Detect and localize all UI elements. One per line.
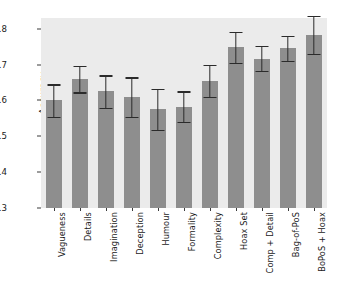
error-bar-cap (256, 46, 269, 47)
error-bar-cap (178, 91, 191, 92)
y-tick-label: 0.4 (0, 167, 7, 177)
x-tick-label: Bag-of-PoS (291, 212, 301, 257)
x-tick-mark (184, 208, 185, 211)
x-tick-mark (288, 208, 289, 211)
x-tick-mark (158, 208, 159, 211)
error-bar-cap (308, 16, 321, 17)
y-tick-label: 0.7 (0, 60, 7, 70)
error-bar-cap (152, 130, 165, 131)
y-tick-label: 0.3 (0, 203, 7, 213)
bar-chart-figure: Accuracy 0.30.40.50.60.70.8VaguenessDeta… (0, 0, 338, 284)
error-bar-cap (126, 117, 139, 118)
bar (72, 79, 88, 208)
error-bar-cap (204, 65, 217, 66)
error-bar-cap (230, 63, 243, 64)
error-bar-cap (230, 32, 243, 33)
y-tick-mark (37, 100, 41, 101)
error-bar (209, 65, 210, 97)
y-tick-mark (37, 172, 41, 173)
error-bar-cap (282, 61, 295, 62)
error-bar (157, 89, 158, 130)
y-tick-mark (37, 28, 41, 29)
x-tick-label: Humour (161, 212, 171, 246)
error-bar-cap (100, 75, 113, 76)
x-tick-label: Imagination (109, 212, 119, 262)
error-bar-cap (152, 89, 165, 90)
error-bar (53, 84, 54, 116)
y-tick-label: 0.8 (0, 24, 7, 34)
bar (306, 35, 322, 208)
x-tick-label: Complexity (213, 212, 223, 259)
bar (254, 59, 270, 208)
y-tick-mark (37, 136, 41, 137)
y-tick-mark (37, 64, 41, 65)
error-bar-cap (126, 77, 139, 78)
x-tick-label: Details (83, 212, 93, 241)
y-tick-label: 0.5 (0, 131, 7, 141)
error-bar-cap (74, 92, 87, 93)
x-tick-mark (210, 208, 211, 211)
x-tick-mark (80, 208, 81, 211)
x-tick-mark (262, 208, 263, 211)
error-bar-cap (48, 84, 61, 85)
x-tick-mark (106, 208, 107, 211)
x-tick-label: BoPoS + Hoax (317, 212, 327, 272)
x-tick-label: Deception (135, 212, 145, 255)
x-tick-label: Vagueness (57, 212, 67, 257)
error-bar-cap (74, 66, 87, 67)
error-bar (183, 91, 184, 121)
error-bar (287, 36, 288, 61)
plot-inner (41, 18, 327, 208)
error-bar-cap (204, 97, 217, 98)
x-tick-label: Hoax Set (239, 212, 249, 250)
plot-area (41, 18, 327, 208)
error-bar-cap (178, 122, 191, 123)
x-tick-mark (236, 208, 237, 211)
error-bar-cap (256, 71, 269, 72)
error-bar (131, 77, 132, 116)
error-bar-cap (48, 117, 61, 118)
y-tick-label: 0.6 (0, 95, 7, 105)
error-bar-cap (100, 108, 113, 109)
x-tick-label: Formality (187, 212, 197, 251)
bar (280, 48, 296, 208)
x-tick-label: Comp + Detail (265, 212, 275, 273)
error-bar (313, 16, 314, 54)
error-bar (235, 32, 236, 63)
error-bar (261, 46, 262, 71)
error-bar-cap (282, 36, 295, 37)
error-bar (105, 75, 106, 107)
y-tick-mark (37, 208, 41, 209)
x-tick-mark (132, 208, 133, 211)
x-tick-mark (54, 208, 55, 211)
error-bar (79, 66, 80, 93)
x-tick-mark (314, 208, 315, 211)
error-bar-cap (308, 54, 321, 55)
bar (228, 47, 244, 208)
bar (202, 81, 218, 208)
